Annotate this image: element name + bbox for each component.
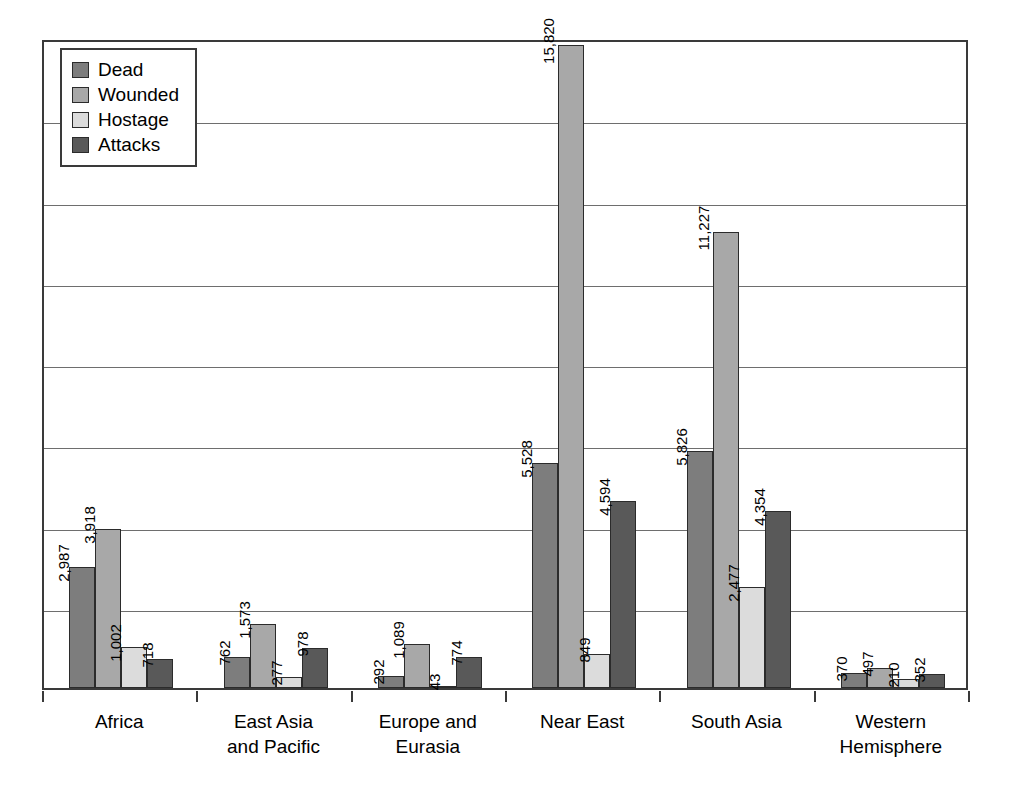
bar: 4,354: [765, 511, 791, 688]
legend-item-label: Attacks: [98, 135, 160, 154]
bar-value-label: 5,826: [666, 410, 681, 448]
bar-group: 2921,08943774: [378, 42, 482, 688]
legend-swatch-icon: [72, 87, 89, 103]
bar: 277: [276, 677, 302, 688]
bar-value-label: 1,002: [100, 606, 115, 644]
legend-swatch-icon: [72, 112, 89, 128]
bar: 11,227: [713, 232, 739, 688]
bar-value-label: 978: [287, 619, 302, 644]
bar-value-label: 3,918: [74, 487, 89, 525]
bar-group: 5,52815,8208494,594: [532, 42, 636, 688]
x-axis-category-label: Near East: [505, 709, 659, 734]
bar-value-label: 1,573: [229, 583, 244, 621]
bar: 2,477: [739, 587, 765, 688]
bar-value-label: 762: [209, 628, 224, 653]
x-axis-tick: [968, 691, 970, 702]
bar: 5,826: [687, 451, 713, 688]
x-axis-category-label: Western Hemisphere: [814, 709, 968, 759]
bar-chart: 2,9873,9181,0027187621,5732779782921,089…: [0, 0, 1009, 792]
bar-value-label: 718: [133, 630, 148, 655]
bar: 43: [430, 686, 456, 688]
bar-group: 370497210352: [841, 42, 945, 688]
legend-item-label: Hostage: [98, 110, 169, 129]
x-axis-tick: [814, 691, 816, 702]
bar-value-label: 2,477: [718, 546, 733, 584]
bar-value-label: 849: [570, 624, 585, 649]
bar: 762: [224, 657, 250, 688]
bar-value-label: 4,594: [589, 460, 604, 498]
bar: 292: [378, 676, 404, 688]
legend-swatch-icon: [72, 137, 89, 153]
bar-value-label: 11,227: [688, 183, 703, 228]
legend: DeadWoundedHostageAttacks: [60, 48, 197, 167]
x-axis-tick: [196, 691, 198, 702]
bar: 774: [456, 657, 482, 688]
bar: 4,594: [610, 501, 636, 688]
bar-value-label: 277: [261, 648, 276, 673]
legend-item: Dead: [72, 57, 179, 82]
bar-group: 7621,573277978: [224, 42, 328, 688]
bar-value-label: 4,354: [744, 470, 759, 508]
bar: 2,987: [69, 567, 95, 688]
x-axis-category-label: Africa: [42, 709, 196, 734]
x-axis-category-label: South Asia: [659, 709, 813, 734]
bar: 5,528: [532, 463, 558, 688]
bar-value-label: 1,089: [383, 602, 398, 640]
legend-item-label: Dead: [98, 60, 143, 79]
bar-value-label: 774: [441, 628, 456, 653]
bar-value-label: 370: [826, 644, 841, 669]
x-axis-tick: [659, 691, 661, 702]
bar: 849: [584, 654, 610, 688]
bar: 352: [919, 674, 945, 688]
x-axis-category-label: Europe and Eurasia: [351, 709, 505, 759]
legend-item-label: Wounded: [98, 85, 179, 104]
x-axis-tick: [351, 691, 353, 702]
bar: 15,820: [558, 45, 584, 688]
bar-value-label: 2,987: [48, 525, 63, 563]
legend-item: Hostage: [72, 107, 179, 132]
bar-group: 5,82611,2272,4774,354: [687, 42, 791, 688]
bar: 718: [147, 659, 173, 688]
x-axis-tick: [42, 691, 44, 702]
legend-item: Wounded: [72, 82, 179, 107]
legend-swatch-icon: [72, 62, 89, 78]
legend-item: Attacks: [72, 132, 179, 157]
bar-value-label: 497: [852, 639, 867, 664]
bar-value-label: 43: [419, 665, 434, 682]
bar-value-label: 5,528: [511, 422, 526, 460]
x-axis-category-label: East Asia and Pacific: [196, 709, 350, 759]
bar-value-label: 352: [904, 645, 919, 670]
x-axis-tick: [505, 691, 507, 702]
bar-value-label: 210: [878, 650, 893, 675]
bar-value-label: 292: [363, 647, 378, 672]
bar-value-label: 15,820: [533, 0, 548, 41]
bar: 978: [302, 648, 328, 688]
